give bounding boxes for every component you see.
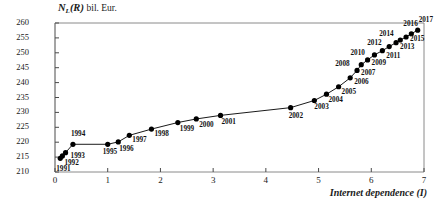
point-label-2000: 2000	[199, 121, 213, 129]
chart-figure: NL(R) bil. Eur. 210215220225230235240245…	[0, 0, 439, 200]
data-point-2015	[403, 34, 408, 39]
point-label-2016: 2016	[403, 20, 417, 28]
data-point-1997	[127, 133, 132, 138]
data-point-1993	[63, 150, 68, 155]
point-label-2008: 2008	[335, 60, 349, 68]
data-point-1998	[149, 126, 154, 131]
point-label-2014: 2014	[379, 30, 393, 38]
point-label-1995: 1995	[103, 148, 117, 156]
point-label-2010: 2010	[350, 49, 364, 57]
point-label-2005: 2005	[342, 88, 356, 96]
data-point-1994	[70, 142, 75, 147]
data-point-1995	[105, 142, 110, 147]
data-point-2007	[354, 68, 359, 73]
data-point-2017	[415, 28, 420, 33]
point-label-2012: 2012	[367, 39, 381, 47]
point-label-2007: 2007	[361, 69, 375, 77]
point-label-2006: 2006	[354, 78, 368, 86]
point-label-1998: 1998	[154, 130, 168, 138]
point-label-2011: 2011	[386, 52, 400, 60]
point-label-1992: 1992	[64, 159, 78, 167]
point-label-2002: 2002	[289, 112, 303, 120]
point-label-2009: 2009	[372, 59, 386, 67]
data-point-2005	[336, 84, 341, 89]
point-label-1997: 1997	[132, 136, 146, 144]
data-point-2011	[380, 48, 385, 53]
data-point-2003	[312, 98, 317, 103]
point-label-2015: 2015	[410, 35, 424, 43]
data-point-2006	[348, 75, 353, 80]
point-label-1996: 1996	[119, 145, 133, 153]
point-label-2001: 2001	[222, 118, 236, 126]
data-point-2010	[372, 52, 377, 57]
data-point-2002	[288, 105, 293, 110]
x-axis-title: Internet dependence (I)	[330, 187, 427, 198]
point-label-1999: 1999	[180, 125, 194, 133]
data-point-2012	[387, 44, 392, 49]
point-label-1994: 1994	[71, 130, 85, 138]
point-label-2004: 2004	[328, 96, 342, 104]
data-point-2008	[359, 62, 364, 67]
data-point-2009	[365, 57, 370, 62]
point-label-2013: 2013	[400, 43, 414, 51]
point-label-1993: 1993	[71, 152, 85, 160]
point-label-2017: 2017	[419, 16, 433, 24]
data-point-1996	[116, 139, 121, 144]
data-point-2001	[218, 113, 223, 118]
data-point-2000	[194, 116, 199, 121]
point-label-2003: 2003	[314, 103, 328, 111]
